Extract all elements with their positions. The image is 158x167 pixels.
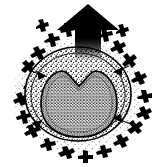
figure-container: Cell cross-section with emerging arrow xyxy=(0,0,158,167)
cell-diagram: Cell cross-section with emerging arrow xyxy=(0,0,158,167)
